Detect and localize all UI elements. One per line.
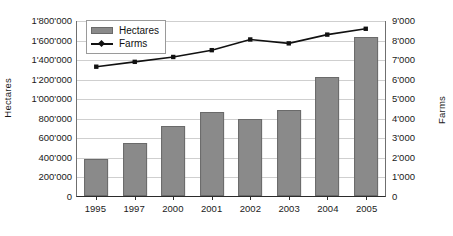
x-axis-tick	[250, 196, 251, 200]
y-tick-label-left: 0	[67, 192, 72, 202]
x-axis-label: 1995	[76, 203, 115, 214]
y-tick-label-left: 600'000	[38, 133, 72, 143]
line-marker	[94, 65, 98, 69]
y-tick-label-right: 0	[392, 192, 397, 202]
y-axis-ticks-right: 01'0002'0003'0004'0005'0006'0007'0008'00…	[392, 0, 452, 236]
legend-swatch-icon	[91, 27, 113, 34]
legend-label-hectares: Hectares	[119, 25, 159, 36]
y-tick-label-right: 7'000	[392, 55, 415, 65]
x-axis-labels: 19951997200020012002200320042005	[76, 203, 386, 214]
legend-line-marker-icon	[91, 39, 113, 48]
chart-legend: Hectares Farms	[86, 20, 166, 54]
y-tick-label-right: 9'000	[392, 16, 415, 26]
x-axis-tick	[96, 196, 97, 200]
line-marker	[210, 48, 214, 52]
x-axis-tick	[289, 196, 290, 200]
y-tick-label-left: 1'600'000	[31, 36, 72, 46]
x-axis-label: 2001	[192, 203, 231, 214]
x-axis-tick	[173, 196, 174, 200]
line-marker	[325, 32, 329, 36]
y-tick-label-right: 6'000	[392, 75, 415, 85]
y-tick-label-right: 5'000	[392, 94, 415, 104]
x-axis-label: 2004	[309, 203, 348, 214]
x-axis-label: 2003	[270, 203, 309, 214]
line-marker	[364, 27, 368, 31]
y-tick-label-left: 800'000	[38, 114, 72, 124]
y-tick-label-left: 200'000	[38, 172, 72, 182]
y-tick-label-right: 2'000	[392, 153, 415, 163]
gridline	[77, 196, 385, 197]
chart-container: Hectares Farms 0200'000400'000600'000800…	[0, 0, 453, 236]
y-tick-label-left: 400'000	[38, 153, 72, 163]
line-marker	[248, 37, 252, 41]
x-axis-tick	[366, 196, 367, 200]
line-marker	[287, 41, 291, 45]
x-axis-label: 2005	[347, 203, 386, 214]
x-axis-tick	[212, 196, 213, 200]
y-tick-label-left: 1'200'000	[31, 75, 72, 85]
line-marker	[133, 60, 137, 64]
legend-item-hectares: Hectares	[91, 24, 159, 37]
y-tick-label-right: 1'000	[392, 172, 415, 182]
x-axis-tick	[135, 196, 136, 200]
x-axis-tick	[327, 196, 328, 200]
legend-label-farms: Farms	[119, 38, 147, 49]
legend-item-farms: Farms	[91, 37, 159, 50]
y-tick-label-left: 1'800'000	[31, 16, 72, 26]
y-tick-label-left: 1'400'000	[31, 55, 72, 65]
y-tick-label-left: 1'000'000	[31, 94, 72, 104]
line-marker	[171, 55, 175, 59]
y-tick-label-right: 4'000	[392, 114, 415, 124]
y-tick-label-right: 3'000	[392, 133, 415, 143]
y-tick-label-right: 8'000	[392, 36, 415, 46]
x-axis-label: 2002	[231, 203, 270, 214]
x-axis-label: 1997	[115, 203, 154, 214]
x-axis-label: 2000	[154, 203, 193, 214]
y-axis-ticks-left: 0200'000400'000600'000800'0001'000'0001'…	[12, 0, 72, 236]
